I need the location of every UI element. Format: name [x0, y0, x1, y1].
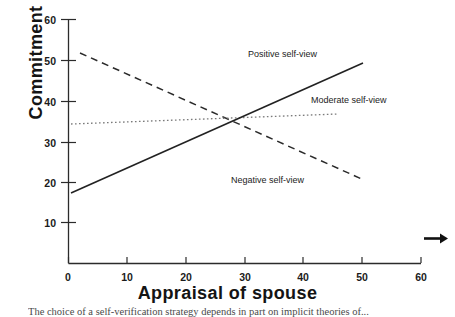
x-tick-label-60: 60 — [415, 272, 427, 283]
y-tick-label-10: 10 — [38, 218, 56, 229]
series-line-positive-self-view — [71, 63, 363, 193]
chart-figure: 60 50 40 30 20 10 0 10 20 30 40 50 60 Ap… — [0, 0, 455, 317]
series-label-positive-self-view: Positive self-view — [248, 50, 317, 59]
figure-caption: The choice of a self-verification strate… — [28, 306, 448, 317]
y-axis-title: Commitment — [26, 0, 47, 143]
series-label-moderate-self-view: Moderate self-view — [311, 96, 387, 105]
x-axis-title: Appraisal of spouse — [0, 283, 455, 304]
x-tick-label-30: 30 — [239, 272, 251, 283]
chart-canvas — [0, 0, 455, 317]
x-tick-label-20: 20 — [180, 272, 192, 283]
series-line-moderate-self-view — [71, 114, 338, 124]
x-tick-label-40: 40 — [297, 272, 309, 283]
right-arrow-icon — [424, 234, 448, 244]
x-tick-label-10: 10 — [121, 272, 133, 283]
y-tick-label-20: 20 — [38, 178, 56, 189]
x-tick-label-50: 50 — [356, 272, 368, 283]
x-tick-label-0: 0 — [65, 272, 71, 283]
series-label-negative-self-view: Negative self-view — [231, 176, 304, 185]
series-line-negative-self-view — [80, 53, 364, 180]
x-axis-ticks — [69, 257, 422, 263]
